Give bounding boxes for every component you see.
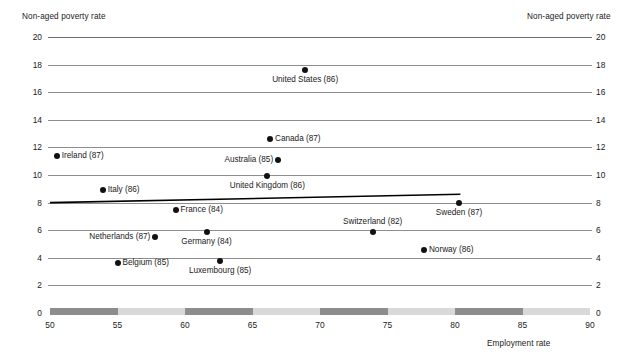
x-axis-band <box>388 308 456 315</box>
y-axis-title-left: Non-aged poverty rate <box>22 12 106 21</box>
data-point[interactable] <box>100 187 106 193</box>
x-axis-band-strip <box>50 308 590 315</box>
y-axis-tick-label: 4 <box>596 253 620 263</box>
y-axis-tick-label: 0 <box>596 308 620 318</box>
y-axis-tick-label: 0 <box>18 308 42 318</box>
x-axis-band <box>253 308 321 315</box>
gridline <box>48 285 592 286</box>
y-axis-tick-label: 20 <box>18 32 42 42</box>
x-axis-band <box>118 308 186 315</box>
data-point-label: Germany (84) <box>181 237 232 247</box>
y-axis-tick-label: 18 <box>596 60 620 70</box>
y-axis-tick-label: 14 <box>596 115 620 125</box>
gridline <box>48 230 592 231</box>
y-axis-tick-label: 14 <box>18 115 42 125</box>
data-point-label: Norway (86) <box>429 245 474 255</box>
data-point-label: Switzerland (82) <box>343 217 402 227</box>
data-point-label: France (84) <box>181 205 223 215</box>
data-point[interactable] <box>152 234 158 240</box>
data-point-label: Belgium (85) <box>123 258 169 268</box>
data-point[interactable] <box>421 247 427 253</box>
y-axis-tick-label: 20 <box>596 32 620 42</box>
x-axis-band <box>185 308 253 315</box>
gridline <box>48 175 592 176</box>
y-axis-tick-label: 10 <box>18 170 42 180</box>
x-axis-tick-label: 85 <box>508 320 538 330</box>
y-axis-title-right: Non-aged poverty rate <box>527 12 611 21</box>
data-point-label: United States (86) <box>272 75 338 85</box>
trendline <box>0 0 620 359</box>
x-axis-tick-label: 90 <box>575 320 605 330</box>
gridline <box>48 92 592 93</box>
x-axis-band <box>50 308 118 315</box>
y-axis-tick-label: 2 <box>596 280 620 290</box>
y-axis-tick-label: 4 <box>18 253 42 263</box>
data-point-label: Italy (86) <box>108 185 140 195</box>
x-axis-tick-label: 75 <box>373 320 403 330</box>
data-point[interactable] <box>302 67 308 73</box>
y-axis-tick-label: 8 <box>18 198 42 208</box>
data-point[interactable] <box>217 258 223 264</box>
y-axis-tick-label: 16 <box>18 87 42 97</box>
data-point-label: Ireland (87) <box>62 151 104 161</box>
x-axis-tick-label: 80 <box>440 320 470 330</box>
data-point-label: Netherlands (87) <box>89 232 150 242</box>
gridline <box>48 203 592 204</box>
data-point-label: Australia (85) <box>224 155 273 165</box>
y-axis-tick-label: 8 <box>596 198 620 208</box>
data-point-label: United Kingdom (86) <box>230 181 305 191</box>
gridline <box>48 37 592 38</box>
y-axis-tick-label: 18 <box>18 60 42 70</box>
gridline <box>48 120 592 121</box>
data-point[interactable] <box>370 229 376 235</box>
x-axis-title: Employment rate <box>487 339 550 348</box>
y-axis-tick-label: 6 <box>596 225 620 235</box>
scatter-chart: Non-aged poverty rate Non-aged poverty r… <box>0 0 620 359</box>
data-point[interactable] <box>115 260 121 266</box>
x-axis-tick-label: 50 <box>35 320 65 330</box>
data-point-label: Canada (87) <box>275 134 321 144</box>
y-axis-tick-label: 10 <box>596 170 620 180</box>
data-point[interactable] <box>456 200 462 206</box>
gridline <box>48 147 592 148</box>
data-point-label: Sweden (87) <box>436 208 482 218</box>
data-point[interactable] <box>264 173 270 179</box>
x-axis-tick-label: 55 <box>103 320 133 330</box>
data-point[interactable] <box>204 229 210 235</box>
y-axis-tick-label: 16 <box>596 87 620 97</box>
y-axis-tick-label: 12 <box>18 142 42 152</box>
data-point[interactable] <box>275 157 281 163</box>
data-point-label: Luxembourg (85) <box>189 266 251 276</box>
data-point[interactable] <box>173 207 179 213</box>
data-point[interactable] <box>267 136 273 142</box>
x-axis-tick-label: 70 <box>305 320 335 330</box>
x-axis-tick-label: 60 <box>170 320 200 330</box>
data-point[interactable] <box>54 153 60 159</box>
y-axis-tick-label: 6 <box>18 225 42 235</box>
y-axis-tick-label: 2 <box>18 280 42 290</box>
gridline <box>48 65 592 66</box>
x-axis-band <box>523 308 591 315</box>
x-axis-band <box>455 308 523 315</box>
y-axis-tick-label: 12 <box>596 142 620 152</box>
x-axis-band <box>320 308 388 315</box>
x-axis-tick-label: 65 <box>238 320 268 330</box>
